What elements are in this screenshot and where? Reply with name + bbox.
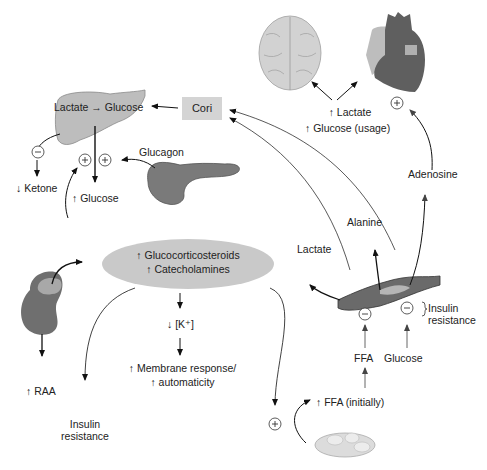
glucocorticosteroids-label: ↑ Glucocorticosteroids <box>103 248 273 262</box>
ffa-initially-label: ↑ FFA (initially) <box>316 396 384 408</box>
glucagon-label: Glucagon <box>139 146 184 158</box>
lactate-brain-heart-label: ↑ Lactate <box>325 106 375 118</box>
hormone-label: ↑ Glucocorticosteroids ↑ Catecholamines <box>103 248 273 276</box>
membrane-line2: ↑ automaticity <box>125 376 240 388</box>
glucose-increase-label: ↑ Glucose <box>72 192 119 204</box>
diagram-canvas <box>0 0 487 470</box>
resistance-line2: resistance <box>60 430 110 442</box>
resistance-line2: resistance <box>428 314 476 326</box>
insulin-line1: Insulin <box>428 302 476 314</box>
insulin-resistance-right-label: Insulin resistance <box>428 302 476 326</box>
adenosine-label: Adenosine <box>408 168 458 180</box>
insulin-resistance-left-label: Insulin resistance <box>60 418 110 442</box>
brace-icon <box>422 302 427 316</box>
liver-label: Lactate → Glucose <box>54 101 143 113</box>
kidney-icon <box>21 272 62 335</box>
ketone-label: ↓ Ketone <box>16 182 57 194</box>
raa-label: ↑ RAA <box>26 385 56 397</box>
cori-box: Cori <box>182 97 222 120</box>
pancreas-icon <box>148 162 240 204</box>
membrane-response-label: ↑ Membrane response/ ↑ automaticity <box>125 362 240 388</box>
glucose-muscle-label: Glucose <box>384 352 423 364</box>
liver-icon <box>55 90 145 145</box>
ffa-label: FFA <box>354 352 373 364</box>
potassium-label: ↓ [K⁺] <box>167 318 194 330</box>
brain-icon <box>259 16 321 90</box>
insulin-line1: Insulin <box>60 418 110 430</box>
glucose-usage-label: ↑ Glucose (usage) <box>305 122 390 134</box>
membrane-line1: ↑ Membrane response/ <box>125 362 240 374</box>
alanine-label: Alanine <box>347 216 382 228</box>
heart-icon <box>366 12 425 92</box>
lactate-muscle-label: Lactate <box>297 243 331 255</box>
fat-cells-icon <box>315 433 375 457</box>
catecholamines-label: ↑ Catecholamines <box>103 262 273 276</box>
